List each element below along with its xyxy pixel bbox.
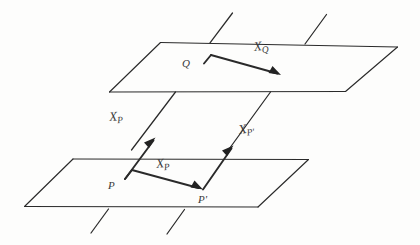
upper-plane-top-edge bbox=[161, 43, 398, 48]
label-vector-x-q: XQ bbox=[253, 38, 269, 56]
label-vector-x-p-prime: XP' bbox=[237, 121, 255, 140]
figure-canvas: Q XQ XP XP' XP P P' bbox=[0, 0, 420, 245]
upper-plane-bottom-edge bbox=[110, 92, 346, 93]
vector-x-p-shaft bbox=[132, 170, 199, 188]
vector-x-q-leader bbox=[204, 55, 211, 64]
label-point-q: Q bbox=[182, 58, 190, 69]
lower-plane-left-edge bbox=[25, 159, 74, 207]
vector-x-p-prime-arrowhead bbox=[222, 146, 234, 157]
transversal-left-above-upper-plane bbox=[210, 13, 233, 43]
vector-x-p-arrowhead bbox=[191, 181, 204, 190]
lower-plane-bottom-edge bbox=[25, 207, 259, 208]
lower-plane-right-edge bbox=[258, 160, 309, 208]
label-point-p-prime: P' bbox=[198, 194, 207, 205]
upper-plane-left-edge bbox=[110, 43, 161, 93]
label-vector-x-p-vertical-subscript: P bbox=[117, 115, 124, 125]
diagram-svg bbox=[0, 0, 420, 245]
vector-x-q bbox=[204, 55, 281, 75]
transversal-right-below-lower-plane bbox=[167, 210, 185, 235]
transversal-left-below-lower-plane bbox=[91, 209, 109, 233]
label-point-p: P bbox=[108, 180, 115, 191]
label-vector-x-p-subscript: P bbox=[164, 162, 171, 173]
label-point-p-prime-text: P' bbox=[198, 193, 207, 205]
label-vector-x-p-vertical: XP bbox=[109, 109, 124, 126]
label-vector-x-q-subscript: Q bbox=[261, 44, 269, 55]
vector-x-p bbox=[125, 170, 203, 190]
upper-plane-right-edge bbox=[346, 47, 398, 92]
vector-x-q-shaft bbox=[211, 55, 278, 74]
vector-x-q-arrowhead bbox=[269, 66, 282, 75]
label-point-p-text: P bbox=[108, 179, 115, 191]
label-vector-x-p-prime-subscript: P' bbox=[246, 127, 255, 138]
lower-plane-top-edge bbox=[73, 159, 309, 160]
label-vector-x-p: XP bbox=[155, 156, 170, 174]
transversal-right-above-upper-plane bbox=[305, 15, 327, 45]
label-point-q-text: Q bbox=[182, 57, 190, 69]
vector-x-p-prime bbox=[203, 146, 234, 190]
vector-x-p-vertical-arrowhead bbox=[144, 138, 156, 149]
